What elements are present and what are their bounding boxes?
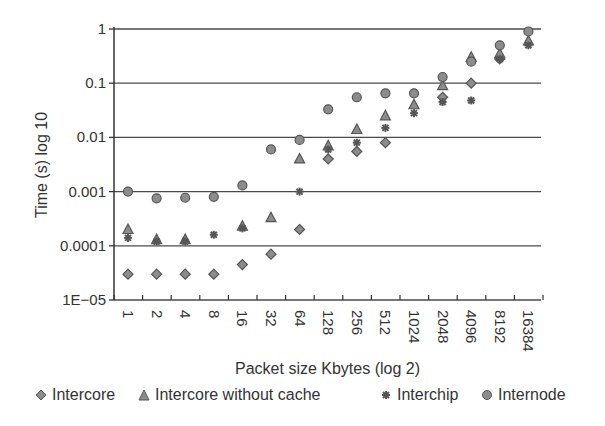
star-icon [380, 389, 392, 401]
circle-marker [295, 135, 304, 144]
star-marker [210, 231, 218, 239]
x-tick-label: 64 [292, 310, 309, 327]
diamond-marker [380, 138, 390, 148]
legend-item-intercore: Intercore [35, 386, 115, 404]
y-tick-label: 0.0001 [60, 237, 106, 254]
diamond-marker [466, 78, 476, 88]
triangle-marker [380, 110, 390, 120]
triangle-marker [352, 124, 362, 134]
x-tick-label: 256 [349, 310, 366, 335]
triangle-marker [409, 99, 419, 109]
legend-label: Intercore [52, 386, 115, 404]
x-tick-label: 8 [206, 310, 223, 318]
star-marker [153, 238, 161, 246]
x-tick-label: 1024 [406, 310, 423, 343]
x-tick-label: 32 [263, 310, 280, 327]
x-tick-label: 2048 [435, 310, 452, 343]
diamond-marker [180, 269, 190, 279]
triangle-marker [123, 224, 133, 234]
y-tick-label: 0.01 [77, 128, 106, 145]
star-marker [238, 224, 246, 232]
y-tick-label: 0.1 [85, 74, 106, 91]
triangle-marker [266, 212, 276, 222]
diamond-marker [295, 224, 305, 234]
star-marker [524, 41, 532, 49]
legend-label: Interchip [397, 386, 458, 404]
x-tick-label: 4 [177, 310, 194, 318]
x-tick-label: 4096 [463, 310, 480, 343]
star-marker [124, 234, 132, 242]
legend: Intercore Intercore without cache Interc… [0, 386, 605, 408]
circle-marker [124, 187, 133, 196]
circle-marker [495, 41, 504, 50]
circle-marker [467, 57, 476, 66]
star-marker [181, 238, 189, 246]
y-tick-label: 1 [98, 20, 106, 37]
legend-item-internode: Internode [481, 386, 566, 404]
legend-label: Intercore without cache [155, 386, 320, 404]
data-points [123, 27, 533, 279]
y-axis: 10.10.010.0010.00011E−05 [60, 20, 114, 308]
x-tick-label: 1 [120, 310, 137, 318]
legend-item-interchip: Interchip [380, 386, 458, 404]
diamond-marker [352, 146, 362, 156]
circle-marker [267, 145, 276, 154]
triangle-marker [295, 153, 305, 163]
diamond-marker [323, 154, 333, 164]
star-marker [439, 98, 447, 106]
circle-marker [324, 105, 333, 114]
star-marker [496, 55, 504, 63]
circle-marker [209, 192, 218, 201]
x-tick-label: 16384 [520, 310, 537, 352]
y-tick-label: 1E−05 [62, 291, 106, 308]
circle-icon [481, 389, 493, 401]
circle-marker [238, 181, 247, 190]
x-axis: 1248163264128256512102420484096819216384 [114, 295, 543, 352]
circle-marker [524, 27, 533, 36]
legend-item-intercore-without-cache: Intercore without cache [138, 386, 320, 404]
diamond-marker [266, 249, 276, 259]
diamond-icon [35, 389, 47, 401]
x-tick-label: 8192 [492, 310, 509, 343]
star-marker [410, 109, 418, 117]
circle-marker [438, 73, 447, 82]
y-tick-label: 0.001 [68, 183, 106, 200]
x-tick-label: 128 [320, 310, 337, 335]
diamond-marker [123, 269, 133, 279]
star-marker [353, 139, 361, 147]
legend-label: Internode [498, 386, 566, 404]
star-marker [324, 145, 332, 153]
x-tick-label: 16 [234, 310, 251, 327]
diamond-marker [237, 260, 247, 270]
gridlines [114, 29, 541, 300]
circle-marker [352, 93, 361, 102]
star-marker [296, 188, 304, 196]
x-tick-label: 512 [377, 310, 394, 335]
circle-marker [181, 193, 190, 202]
circle-marker [152, 194, 161, 203]
star-marker [381, 124, 389, 132]
triangle-icon [138, 389, 150, 401]
y-axis-label: Time (s) log 10 [33, 112, 50, 218]
diamond-marker [209, 269, 219, 279]
diamond-marker [152, 269, 162, 279]
circle-marker [381, 89, 390, 98]
star-marker [467, 96, 475, 104]
x-tick-label: 2 [149, 310, 166, 318]
x-axis-label: Packet size Kbytes (log 2) [0, 360, 605, 378]
circle-marker [410, 89, 419, 98]
